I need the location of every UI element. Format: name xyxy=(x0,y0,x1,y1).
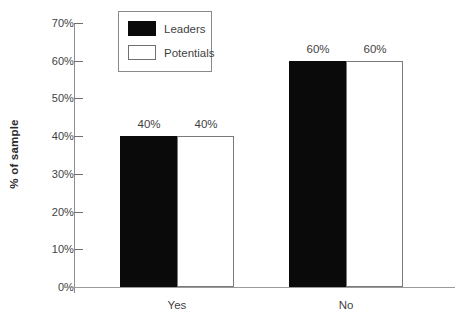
y-tick-label-70-wrap: 70% xyxy=(28,18,74,29)
y-tick-label-20: 20% xyxy=(38,207,74,218)
bar-no-leaders[interactable] xyxy=(289,61,347,287)
y-axis-line xyxy=(74,23,75,293)
white-swatch-icon xyxy=(128,45,156,60)
bar-value-yes-leaders: 40% xyxy=(120,118,178,130)
y-tick-label-10-wrap: 10% xyxy=(28,244,74,255)
y-tick-mark-10 xyxy=(74,249,83,250)
y-tick-mark-50 xyxy=(74,98,83,99)
y-tick-label-10: 10% xyxy=(38,244,74,255)
legend: Leaders Potentials xyxy=(118,11,212,72)
y-tick-label-40: 40% xyxy=(38,131,74,142)
bar-yes-potentials[interactable] xyxy=(177,136,234,287)
legend-item-potentials[interactable]: Potentials xyxy=(128,45,215,60)
bar-chart: % of sample 70% 60% 50% 40% 30% 20% 10% … xyxy=(0,0,461,323)
x-axis-line xyxy=(63,287,455,288)
y-tick-mark-20 xyxy=(74,212,83,213)
black-swatch-icon xyxy=(128,21,156,36)
bar-no-potentials[interactable] xyxy=(346,61,403,287)
legend-label-potentials: Potentials xyxy=(164,47,215,59)
y-tick-mark-60 xyxy=(74,61,83,62)
bar-yes-leaders[interactable] xyxy=(120,136,178,287)
y-tick-label-70: 70% xyxy=(38,18,74,29)
y-tick-mark-70 xyxy=(74,23,83,24)
y-tick-label-50: 50% xyxy=(38,93,74,104)
bar-value-yes-potentials: 40% xyxy=(177,118,235,130)
y-tick-label-60: 60% xyxy=(38,56,74,67)
x-tick-label-no: No xyxy=(316,299,376,311)
legend-item-leaders[interactable]: Leaders xyxy=(128,21,206,36)
legend-label-leaders: Leaders xyxy=(164,23,206,35)
y-tick-label-20-wrap: 20% xyxy=(28,207,74,218)
y-tick-label-50-wrap: 50% xyxy=(28,93,74,104)
y-tick-label-30-wrap: 30% xyxy=(28,169,74,180)
x-tick-label-yes: Yes xyxy=(147,299,207,311)
bar-value-no-leaders: 60% xyxy=(289,43,347,55)
y-tick-mark-40 xyxy=(74,136,83,137)
y-tick-mark-30 xyxy=(74,174,83,175)
y-tick-label-40-wrap: 40% xyxy=(28,131,74,142)
bar-value-no-potentials: 60% xyxy=(346,43,404,55)
y-axis-title: % of sample xyxy=(8,109,20,199)
y-tick-label-30: 30% xyxy=(38,169,74,180)
y-tick-label-60-wrap: 60% xyxy=(28,56,74,67)
